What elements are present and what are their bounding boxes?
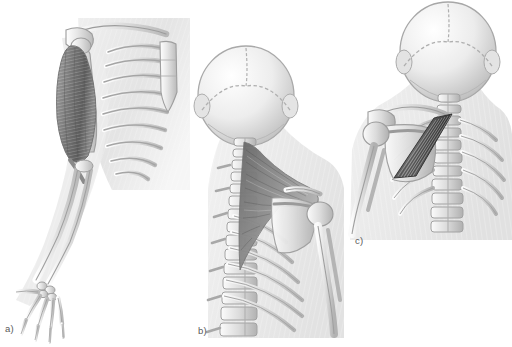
hand-skeleton [16, 282, 63, 342]
panel-b-trapezius [168, 38, 350, 347]
thumb [16, 291, 38, 292]
panel-label-b: b) [198, 326, 207, 336]
phalanges [21, 320, 63, 342]
panel-label-c: c) [355, 236, 363, 246]
anatomy-figure: a) [0, 0, 512, 347]
panel-c-rhomboid [332, 0, 512, 255]
panel-label-a: a) [5, 324, 14, 334]
